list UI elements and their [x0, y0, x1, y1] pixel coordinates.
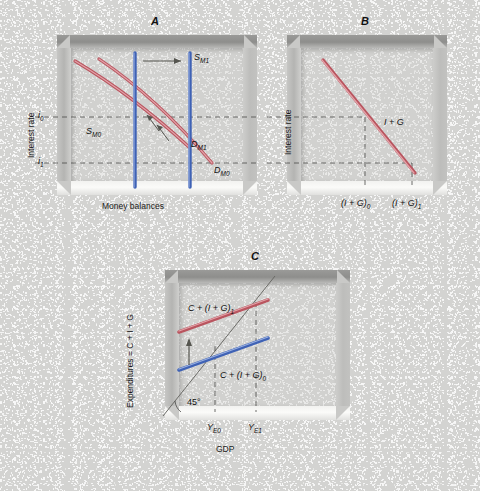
- panel-c: C C + (I + G)1 C +: [165, 270, 350, 420]
- label-aggregate-expenditure-0: C + (I + G)0: [220, 370, 266, 382]
- expenditure-shift-arrowhead: [186, 338, 192, 346]
- tick-label-ig0: (I + G)0: [341, 198, 370, 210]
- angle-arc: [175, 401, 181, 412]
- label-demand-money-0: DM0: [214, 165, 230, 177]
- panel-b-graphics: [287, 35, 447, 195]
- panel-c-x-axis-label: GDP: [216, 444, 234, 454]
- tick-label-ig1: (I + G)1: [392, 198, 421, 210]
- panel-c-letter: C: [251, 250, 259, 262]
- label-investment-government: I + G: [384, 117, 404, 127]
- panel-c-y-axis-label: Expenditures = C + I + G: [125, 314, 135, 408]
- tick-label-i1: i1: [38, 156, 44, 168]
- panel-a-letter: A: [151, 15, 159, 27]
- label-aggregate-expenditure-1: C + (I + G)1: [188, 303, 234, 315]
- label-demand-money-1: DM1: [191, 139, 207, 151]
- tick-label-ye1: YE1: [248, 422, 262, 434]
- tick-label-i0: i0: [38, 110, 44, 122]
- aggregate-expenditure-0-highlight: [179, 337, 268, 369]
- panel-b: B I + G Interest rate (I + G)0 (I + G)1: [287, 35, 447, 195]
- forty-five-degree-line: [163, 276, 275, 416]
- label-supply-money-1: SM1: [194, 52, 209, 64]
- tick-label-ye0: YE0: [207, 422, 221, 434]
- label-supply-money-0: SM0: [86, 126, 101, 138]
- panel-b-y-axis-label: Interest rate: [283, 110, 293, 155]
- panel-a-y-axis-label: Interest rate: [26, 113, 36, 158]
- label-forty-five-degree: 45°: [187, 397, 201, 407]
- panel-a: A: [57, 35, 257, 195]
- aggregate-expenditure-0-line: [179, 338, 268, 370]
- money-supply-shift-arrowhead: [174, 58, 181, 64]
- economics-figure: A: [0, 0, 480, 491]
- panel-a-x-axis-label: Money balances: [102, 201, 164, 211]
- panel-b-letter: B: [361, 15, 369, 27]
